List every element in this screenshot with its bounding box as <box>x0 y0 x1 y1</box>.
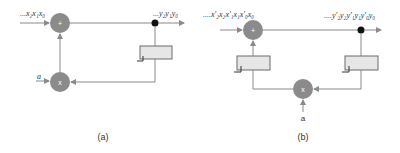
output-label-a: ...y₂y₁y₀ <box>153 9 178 18</box>
junction-dot-icon <box>152 20 159 27</box>
multiplier-node-b: x <box>293 79 313 99</box>
feedback-wire-a2 <box>71 59 155 82</box>
junction-dot-icon <box>358 27 365 34</box>
coefficient-label-a: a <box>37 72 41 81</box>
diagram-b: ....x'₂x₂x'₁x₁x'₀x₀ + ....y'₂y₂y'₁y₁y'₀y… <box>203 10 381 142</box>
caption-a: (a) <box>98 132 109 142</box>
feedback-wire-b2 <box>314 70 361 89</box>
caption-b: (b) <box>298 132 309 142</box>
delay-block-a <box>137 46 172 61</box>
output-label-b: ....y'₂y₂y'₁y₁y'₀y₀ <box>324 11 375 20</box>
input-label-a: ...x₂x₁x₀ <box>20 9 45 18</box>
diagram-a: ...x₂x₁x₀ + ...y₂y₁y₀ x a (a) <box>20 9 184 142</box>
delay-block-b-right <box>342 56 378 72</box>
multiplier-node-a: x <box>50 72 70 92</box>
delay-block-b-left <box>234 56 270 72</box>
multiplier-symbol: x <box>58 79 62 86</box>
adder-node-b: + <box>243 20 263 40</box>
adder-symbol: + <box>251 27 255 34</box>
diagram-canvas: ...x₂x₁x₀ + ...y₂y₁y₀ x a (a) <box>0 0 400 153</box>
coefficient-label-b: a <box>301 114 306 123</box>
input-label-b: ....x'₂x₂x'₁x₁x'₀x₀ <box>203 10 254 19</box>
adder-node-a: + <box>50 13 70 33</box>
adder-symbol: + <box>58 20 62 27</box>
multiplier-symbol: x <box>301 86 305 93</box>
product-wire-b1 <box>253 70 293 89</box>
